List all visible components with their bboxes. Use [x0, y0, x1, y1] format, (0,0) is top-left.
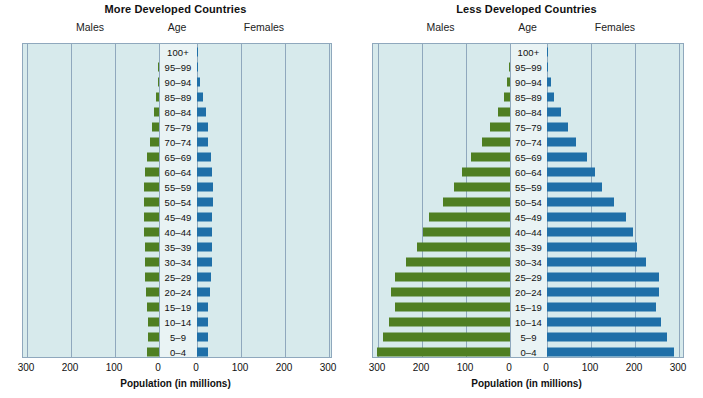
bar-female — [197, 197, 213, 206]
x-tick-label: 0 — [506, 362, 512, 373]
age-group-label: 95–99 — [510, 61, 547, 72]
pyramid-row: 75–79 — [23, 119, 331, 134]
bar-male — [144, 212, 159, 221]
pyramid-row: 100+ — [23, 44, 331, 59]
population-pyramid-figure: More Developed Countries Males Age Femal… — [0, 0, 703, 398]
age-group-label: 10–14 — [159, 316, 197, 327]
age-group-label: 75–79 — [159, 121, 197, 132]
x-tick-label: 200 — [62, 362, 79, 373]
bar-female — [197, 167, 212, 176]
age-group-label: 80–84 — [510, 106, 547, 117]
pyramid-row: 25–29 — [23, 269, 331, 284]
age-group-label: 55–59 — [510, 181, 547, 192]
age-group-label: 65–69 — [159, 151, 197, 162]
pyramid-row: 45–49 — [23, 209, 331, 224]
pyramid-row: 75–79 — [373, 119, 683, 134]
pyramid-row: 90–94 — [23, 74, 331, 89]
x-tick-label: 0 — [193, 362, 199, 373]
bar-female — [197, 272, 211, 281]
bar-female — [547, 302, 656, 311]
pyramid-row: 85–89 — [23, 89, 331, 104]
bar-female — [197, 92, 203, 101]
pyramid-row: 80–84 — [23, 104, 331, 119]
x-tick-label: 200 — [413, 362, 430, 373]
bar-female — [197, 302, 208, 311]
bar-female — [197, 287, 210, 296]
bar-male — [145, 257, 159, 266]
age-group-label: 15–19 — [510, 301, 547, 312]
x-tick-label: 100 — [582, 362, 599, 373]
bar-female — [547, 62, 548, 71]
bar-female — [547, 317, 661, 326]
age-group-label: 25–29 — [159, 271, 197, 282]
age-group-label: 80–84 — [159, 106, 197, 117]
bar-male — [462, 167, 510, 176]
age-group-label: 55–59 — [159, 181, 197, 192]
bar-male — [148, 317, 159, 326]
pyramid-row: 35–39 — [23, 239, 331, 254]
age-group-label: 45–49 — [510, 211, 547, 222]
pyramid-row: 70–74 — [23, 134, 331, 149]
bar-female — [197, 182, 213, 191]
bar-female — [547, 137, 576, 146]
age-group-label: 20–24 — [510, 286, 547, 297]
bar-female — [197, 77, 200, 86]
pyramid-row: 70–74 — [373, 134, 683, 149]
bar-male — [147, 152, 159, 161]
column-header-age: Age — [137, 21, 217, 33]
bar-female — [197, 137, 208, 146]
column-header-females: Females — [575, 21, 655, 33]
age-group-label: 5–9 — [159, 331, 197, 342]
age-group-label: 40–44 — [510, 226, 547, 237]
age-group-label: 30–34 — [510, 256, 547, 267]
plot-area-more-developed: 100+95–9990–9485–8980–8475–7970–7465–696… — [22, 43, 332, 358]
bar-male — [482, 137, 510, 146]
bar-male — [383, 332, 510, 341]
bar-female — [197, 317, 208, 326]
bar-male — [391, 287, 510, 296]
x-tick-label: 100 — [457, 362, 474, 373]
bar-male — [443, 197, 510, 206]
x-tick-label: 100 — [232, 362, 249, 373]
bar-female — [547, 212, 626, 221]
bar-female — [197, 242, 212, 251]
bar-female — [547, 347, 674, 356]
age-group-label: 0–4 — [510, 346, 547, 357]
bar-male — [395, 272, 510, 281]
pyramid-row: 55–59 — [23, 179, 331, 194]
x-tick-label: 100 — [106, 362, 123, 373]
age-group-label: 25–29 — [510, 271, 547, 282]
bar-male — [454, 182, 510, 191]
age-group-label: 90–94 — [159, 76, 197, 87]
pyramid-row: 55–59 — [373, 179, 683, 194]
bar-male — [498, 107, 510, 116]
pyramid-row: 95–99 — [23, 59, 331, 74]
bar-male — [406, 257, 510, 266]
bar-female — [197, 212, 212, 221]
pyramid-row: 30–34 — [23, 254, 331, 269]
bar-female — [547, 77, 551, 86]
plot-area-less-developed: 100+95–9990–9485–8980–8475–7970–7465–696… — [372, 43, 684, 358]
age-group-label: 85–89 — [159, 91, 197, 102]
age-group-label: 30–34 — [159, 256, 197, 267]
pyramid-row: 95–99 — [373, 59, 683, 74]
x-tick-label: 300 — [320, 362, 337, 373]
bar-female — [547, 167, 595, 176]
pyramid-row: 5–9 — [373, 329, 683, 344]
chart-panel-less-developed: Less Developed Countries Males Age Femal… — [351, 0, 702, 398]
x-tick-label: 300 — [369, 362, 386, 373]
bar-female — [547, 92, 554, 101]
bar-male — [423, 227, 510, 236]
pyramid-row: 25–29 — [373, 269, 683, 284]
bar-male — [148, 332, 159, 341]
bar-male — [146, 287, 159, 296]
age-group-label: 75–79 — [510, 121, 547, 132]
x-axis-title-more-developed: Population (in millions) — [0, 378, 351, 389]
bar-female — [547, 122, 568, 131]
bar-male — [150, 137, 159, 146]
pyramid-row: 100+ — [373, 44, 683, 59]
age-group-label: 100+ — [510, 46, 547, 57]
bar-female — [197, 347, 208, 356]
pyramid-row: 80–84 — [373, 104, 683, 119]
x-tick-label: 200 — [626, 362, 643, 373]
